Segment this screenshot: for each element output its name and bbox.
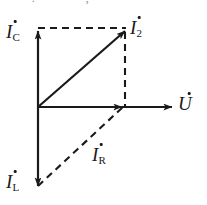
label-u: U — [178, 94, 192, 113]
label-ir: IR — [92, 145, 106, 166]
label-il-sub: L — [13, 181, 20, 193]
label-i2-sub: 2 — [137, 27, 143, 39]
label-ic-base: I — [6, 21, 12, 42]
label-u-base: U — [178, 93, 192, 114]
label-ir-sub: R — [99, 154, 106, 166]
label-ir-dot — [100, 143, 103, 146]
label-i2-base: I — [130, 17, 136, 38]
label-il-base: I — [6, 171, 12, 192]
label-ic: IC — [6, 22, 20, 43]
label-u-dot — [188, 92, 191, 95]
label-ic-sub: C — [13, 31, 20, 43]
label-i2-dot — [138, 16, 141, 19]
label-i2: I2 — [130, 18, 142, 39]
phasor-diagram-figure: *^ **.**** * *, ** IC I2 U IR IL — [0, 0, 207, 205]
label-il: IL — [6, 172, 19, 193]
label-il-dot — [14, 170, 17, 173]
phasor-ir — [38, 106, 124, 186]
label-ic-dot — [14, 20, 17, 23]
phasor-i2 — [38, 31, 125, 107]
label-ir-base: I — [92, 144, 98, 165]
phasor-svg — [0, 0, 207, 205]
